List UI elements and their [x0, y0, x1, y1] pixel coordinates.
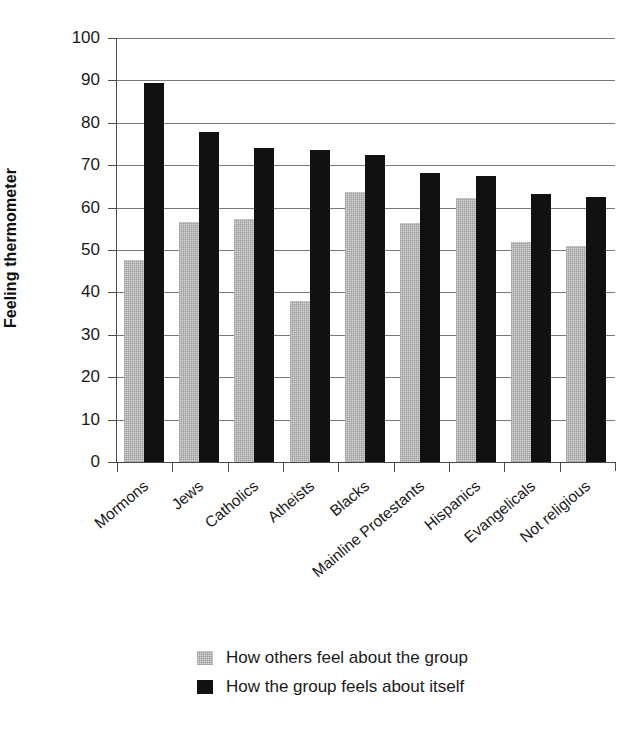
x-tick-6: [449, 463, 450, 472]
y-tick-label-90: 90: [42, 71, 100, 88]
legend-swatch-self: [197, 680, 213, 694]
bar-blacks-others: [345, 192, 365, 463]
bar-jews-self: [199, 132, 219, 462]
gridline-100: [117, 38, 615, 39]
x-tick-1: [172, 463, 173, 472]
y-tick-label-60: 60: [42, 199, 100, 216]
chart-legend: How others feel about the group How the …: [197, 643, 577, 701]
y-tick-20: [108, 377, 117, 378]
bar-mormons-self: [144, 83, 164, 462]
y-tick-10: [108, 420, 117, 421]
gridline-90: [117, 80, 615, 81]
y-tick-label-10: 10: [42, 411, 100, 428]
y-tick-30: [108, 335, 117, 336]
y-tick-label-40: 40: [42, 283, 100, 300]
bar-jews-others: [179, 222, 199, 462]
plot-area: [117, 38, 615, 462]
bar-not-religious-others: [566, 246, 586, 462]
y-tick-label-30: 30: [42, 326, 100, 343]
y-tick-70: [108, 165, 117, 166]
y-tick-0: [108, 462, 117, 463]
bar-mormons-others: [124, 260, 144, 462]
bar-evangelicals-others: [511, 242, 531, 462]
y-tick-90: [108, 80, 117, 81]
feeling-thermometer-chart: Feeling thermometer 01020304050607080901…: [0, 0, 642, 736]
x-tick-7: [504, 463, 505, 472]
x-tick-3: [283, 463, 284, 472]
x-tick-8: [560, 463, 561, 472]
bar-blacks-self: [365, 155, 385, 462]
y-tick-label-80: 80: [42, 114, 100, 131]
y-tick-label-50: 50: [42, 241, 100, 258]
x-tick-0: [117, 463, 118, 472]
legend-item-others: How others feel about the group: [197, 643, 577, 672]
x-tick-4: [338, 463, 339, 472]
x-axis-tick-labels: MormonsJewsCatholicsAtheistsBlacksMainli…: [0, 462, 642, 622]
y-tick-label-100: 100: [42, 29, 100, 46]
bar-hispanics-self: [476, 176, 496, 462]
y-axis-tick-labels: 0102030405060708090100: [38, 0, 100, 500]
bar-atheists-self: [310, 150, 330, 462]
y-tick-60: [108, 208, 117, 209]
y-tick-40: [108, 292, 117, 293]
bar-not-religious-self: [586, 197, 606, 462]
bar-evangelicals-self: [531, 194, 551, 462]
y-tick-50: [108, 250, 117, 251]
bar-catholics-self: [254, 148, 274, 462]
y-axis-title: Feeling thermometer: [2, 128, 26, 368]
bar-mainline-protestants-others: [400, 223, 420, 462]
gridline-80: [117, 123, 615, 124]
legend-swatch-others: [197, 651, 213, 665]
y-tick-100: [108, 38, 117, 39]
x-tick-5: [394, 463, 395, 472]
bar-hispanics-others: [456, 198, 476, 462]
legend-label-others: How others feel about the group: [226, 648, 468, 668]
bar-mainline-protestants-self: [420, 173, 440, 462]
x-tick-2: [228, 463, 229, 472]
y-tick-label-70: 70: [42, 156, 100, 173]
y-tick-80: [108, 123, 117, 124]
bar-catholics-others: [234, 219, 254, 462]
legend-item-self: How the group feels about itself: [197, 672, 577, 701]
bar-atheists-others: [290, 301, 310, 462]
y-tick-label-20: 20: [42, 368, 100, 385]
legend-label-self: How the group feels about itself: [226, 677, 464, 697]
